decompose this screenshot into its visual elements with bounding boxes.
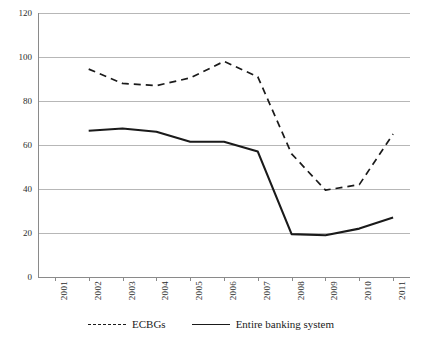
chart-legend: ECBGs Entire banking system [0,318,422,330]
series-layer [0,0,422,345]
legend-item-ecbgs: ECBGs [88,318,166,330]
legend-item-entire-banking-system: Entire banking system [192,318,334,330]
legend-swatch-solid-icon [192,324,230,325]
series-line-ecbgs [89,61,393,190]
series-line-entire-banking-system [89,129,393,236]
legend-label-ecbgs: ECBGs [132,318,166,330]
legend-label-entire-banking-system: Entire banking system [236,318,334,330]
legend-swatch-dashed-icon [88,324,126,325]
line-chart: 020406080100120 200120022003200420052006… [0,0,422,345]
